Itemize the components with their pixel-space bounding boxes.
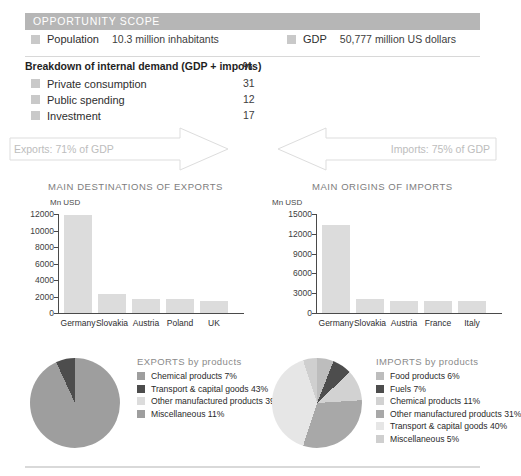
page-title: OPPORTUNITY SCOPE bbox=[33, 15, 160, 27]
y-axis-tick-label: 6000 bbox=[20, 259, 54, 269]
breakdown-value: 12 bbox=[243, 93, 255, 105]
legend-item: Other manufactured products 39% bbox=[137, 395, 282, 407]
bar bbox=[98, 294, 126, 313]
y-axis-unit-label: Mn USD bbox=[272, 198, 302, 207]
x-axis-line bbox=[58, 313, 244, 314]
bullet-square-icon bbox=[31, 111, 40, 120]
bar bbox=[458, 301, 486, 313]
legend-swatch-icon bbox=[137, 385, 145, 393]
legend-label: Fuels 7% bbox=[390, 384, 426, 394]
bar bbox=[64, 215, 92, 313]
exports-share-label: Exports: 71% of GDP bbox=[14, 143, 114, 155]
legend-item: Miscellaneous 11% bbox=[137, 408, 224, 420]
fact-value: 10.3 million inhabitants bbox=[112, 33, 219, 45]
bullet-square-icon bbox=[31, 95, 40, 104]
divider bbox=[25, 56, 480, 57]
y-axis-line bbox=[58, 214, 59, 313]
bar bbox=[424, 301, 452, 313]
legend-swatch-icon bbox=[137, 397, 145, 405]
legend-swatch-icon bbox=[376, 385, 384, 393]
imports-pie-title: IMPORTS by products bbox=[376, 356, 478, 367]
y-axis-unit-label: Mn USD bbox=[50, 198, 80, 207]
fact-population: Population 10.3 million inhabitants bbox=[31, 33, 219, 45]
bar bbox=[132, 299, 160, 313]
legend-label: Transport & capital goods 43% bbox=[151, 384, 268, 394]
imports-by-products-pie bbox=[272, 358, 362, 448]
breakdown-label: Public spending bbox=[47, 94, 125, 106]
x-axis-category-label: Italy bbox=[450, 318, 494, 328]
breakdown-label: Private consumption bbox=[47, 78, 147, 90]
legend-item: Fuels 7% bbox=[376, 383, 426, 395]
bullet-square-icon bbox=[31, 79, 40, 88]
legend-swatch-icon bbox=[376, 397, 384, 405]
x-axis-category-label: UK bbox=[192, 318, 236, 328]
y-axis-tick-label: 2000 bbox=[20, 292, 54, 302]
exports-section-title: MAIN DESTINATIONS OF EXPORTS bbox=[48, 181, 223, 192]
legend-swatch-icon bbox=[137, 410, 145, 418]
legend-label: Chemical products 11% bbox=[390, 396, 480, 406]
legend-swatch-icon bbox=[137, 372, 145, 380]
legend-label: Food products 6% bbox=[390, 371, 460, 381]
legend-label: Chemical products 7% bbox=[151, 371, 237, 381]
breakdown-value: 17 bbox=[243, 109, 255, 121]
bar bbox=[356, 299, 384, 313]
breakdown-row-public-spending: Public spending bbox=[31, 92, 125, 107]
fact-label: Population bbox=[47, 33, 99, 45]
y-axis-tick-label: 0 bbox=[20, 308, 54, 318]
legend-item: Chemical products 7% bbox=[137, 370, 237, 382]
legend-item: Other manufactured products 31% bbox=[376, 408, 521, 420]
opportunity-scope-header: OPPORTUNITY SCOPE bbox=[25, 13, 480, 30]
legend-swatch-icon bbox=[376, 435, 384, 443]
bullet-square-icon bbox=[287, 35, 296, 44]
breakdown-row-investment: Investment bbox=[31, 108, 101, 123]
legend-label: Miscellaneous 11% bbox=[151, 409, 224, 419]
legend-item: Chemical products 11% bbox=[376, 395, 480, 407]
legend-swatch-icon bbox=[376, 422, 384, 430]
fact-value: 50,777 million US dollars bbox=[340, 33, 456, 45]
y-axis-tick-label: 10000 bbox=[20, 226, 54, 236]
exports-by-products-pie bbox=[30, 358, 120, 448]
legend-label: Miscellaneous 5% bbox=[390, 434, 459, 444]
legend-item: Transport & capital goods 40% bbox=[376, 420, 507, 432]
legend-label: Transport & capital goods 40% bbox=[390, 421, 507, 431]
breakdown-unit: % bbox=[243, 60, 252, 72]
legend-item: Food products 6% bbox=[376, 370, 460, 382]
breakdown-title: Breakdown of internal demand (GDP + impo… bbox=[25, 60, 261, 72]
y-axis-tick-label: 8000 bbox=[20, 242, 54, 252]
fact-gdp: GDP 50,777 million US dollars bbox=[287, 33, 456, 45]
bar bbox=[166, 299, 194, 313]
y-axis-tick-label: 15000 bbox=[278, 209, 312, 219]
legend-item: Miscellaneous 5% bbox=[376, 433, 459, 445]
bottom-divider bbox=[25, 466, 480, 468]
y-axis-line bbox=[316, 214, 317, 313]
bullet-square-icon bbox=[31, 35, 40, 44]
bar bbox=[322, 225, 350, 313]
exports-pie-title: EXPORTS by products bbox=[137, 356, 242, 367]
imports-origins-bar-chart: Mn USD 03000600090001200015000GermanySlo… bbox=[268, 198, 506, 338]
y-axis-tick-label: 12000 bbox=[20, 209, 54, 219]
y-axis-tick-label: 6000 bbox=[278, 268, 312, 278]
fact-label: GDP bbox=[303, 33, 327, 45]
y-axis-tick-label: 4000 bbox=[20, 275, 54, 285]
legend-label: Other manufactured products 31% bbox=[390, 409, 521, 419]
bar bbox=[200, 301, 228, 313]
exports-destinations-bar-chart: Mn USD 020004000600080001000012000German… bbox=[10, 198, 250, 338]
breakdown-row-private-consumption: Private consumption bbox=[31, 76, 147, 91]
trade-flow-arrows: Exports: 71% of GDP Imports: 75% of GDP bbox=[0, 126, 506, 172]
legend-item: Transport & capital goods 43% bbox=[137, 383, 268, 395]
imports-share-label: Imports: 75% of GDP bbox=[391, 143, 490, 155]
legend-swatch-icon bbox=[376, 372, 384, 380]
bar bbox=[390, 301, 418, 313]
key-facts: Population 10.3 million inhabitants GDP … bbox=[25, 33, 480, 55]
y-axis-tick-label: 9000 bbox=[278, 249, 312, 259]
y-axis-tick-label: 0 bbox=[278, 308, 312, 318]
y-axis-tick-label: 12000 bbox=[278, 229, 312, 239]
x-axis-line bbox=[316, 313, 502, 314]
legend-label: Other manufactured products 39% bbox=[151, 396, 282, 406]
imports-section-title: MAIN ORIGINS OF IMPORTS bbox=[312, 181, 453, 192]
breakdown-label: Investment bbox=[47, 110, 101, 122]
legend-swatch-icon bbox=[376, 410, 384, 418]
y-axis-tick-label: 3000 bbox=[278, 288, 312, 298]
breakdown-value: 31 bbox=[243, 77, 255, 89]
